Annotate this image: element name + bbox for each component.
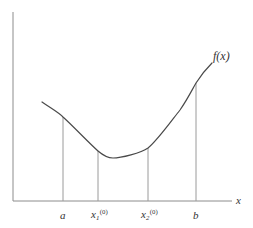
axis-label-x: x bbox=[236, 195, 241, 206]
function-curve bbox=[42, 63, 212, 158]
plot-canvas bbox=[0, 0, 253, 228]
tick-label-x1: x1(0) bbox=[91, 209, 108, 222]
tick-label-a: a bbox=[60, 210, 66, 221]
function-plot-figure: f(x) x a x1(0) x2(0) b bbox=[0, 0, 253, 228]
curve-label-fx: f(x) bbox=[213, 50, 230, 62]
tick-label-x1-superscript: (0) bbox=[99, 208, 107, 215]
tick-label-x2: x2(0) bbox=[141, 209, 158, 222]
tick-label-b: b bbox=[193, 210, 199, 221]
tick-label-x2-superscript: (0) bbox=[149, 208, 157, 215]
